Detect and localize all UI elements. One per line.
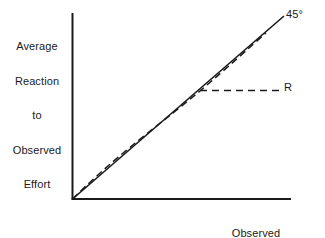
r-label: R [284, 82, 292, 94]
y-axis-label-line-3: to [6, 110, 68, 122]
x-axis-label: Observed Average Effort [196, 205, 316, 238]
forty-five-degree-label: 45° [286, 9, 303, 21]
forty-five-degree-line [73, 16, 285, 199]
y-axis-label-line-1: Average [6, 41, 68, 53]
x-axis-label-line-1: Observed [196, 228, 316, 238]
y-axis-label-line-4: Observed [6, 145, 68, 157]
y-axis-label-line-2: Reaction [6, 76, 68, 88]
y-axis-label: Average Reaction to Observed Effort [6, 18, 68, 214]
y-axis-label-line-5: Effort [6, 179, 68, 191]
figure-container: Average Reaction to Observed Effort Obse… [0, 0, 325, 238]
